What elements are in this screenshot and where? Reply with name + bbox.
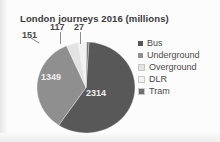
- legend-swatch-icon: [138, 53, 143, 58]
- legend-label: Bus: [147, 37, 163, 49]
- scan-edge-left: [0, 0, 7, 142]
- legend-label: Tram: [149, 85, 170, 97]
- legend-label: Overground: [149, 61, 197, 73]
- slice-value-dlr: 117: [50, 22, 65, 32]
- slice-value-underground: 1349: [41, 72, 61, 82]
- leader-line-tram: [80, 32, 81, 44]
- legend-item-underground[interactable]: Underground: [138, 49, 216, 61]
- legend-label: Underground: [147, 49, 200, 61]
- chart-title: London journeys 2016 (millions): [20, 13, 169, 24]
- chart-canvas: London journeys 2016 (millions) 2314 134…: [0, 0, 220, 142]
- legend-item-bus[interactable]: Bus: [138, 37, 216, 49]
- legend-swatch-icon: [138, 88, 145, 95]
- slice-value-bus: 2314: [86, 88, 106, 98]
- slice-value-overground: 151: [22, 30, 37, 40]
- legend-swatch-icon: [138, 76, 145, 83]
- scan-edge-bottom: [0, 133, 220, 142]
- legend-label: DLR: [149, 73, 167, 85]
- legend-item-dlr[interactable]: DLR: [138, 73, 216, 85]
- legend-swatch-icon: [138, 64, 145, 71]
- legend-item-overground[interactable]: Overground: [138, 61, 216, 73]
- legend-item-tram[interactable]: Tram: [138, 85, 216, 97]
- legend-swatch-icon: [138, 41, 143, 46]
- slice-value-tram: 27: [74, 22, 84, 32]
- leader-line-dlr: [60, 32, 61, 44]
- chart-legend: Bus Underground Overground DLR Tram: [138, 37, 216, 97]
